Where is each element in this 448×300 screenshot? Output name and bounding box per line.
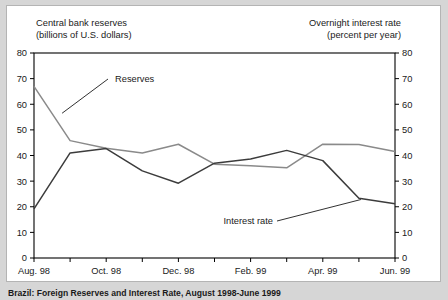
chart-card: Central bank reserves(billions of U.S. d… xyxy=(6,5,441,282)
x-tick-label: Dec. 98 xyxy=(162,266,194,276)
x-tick-label: Apr. 99 xyxy=(308,266,337,276)
y-tick-label-left: 50 xyxy=(17,125,27,135)
y-tick-label-right: 30 xyxy=(402,177,412,187)
right-axis-title-line1: Overnight interest rate xyxy=(309,18,401,28)
x-tick-label: Aug. 98 xyxy=(18,266,50,276)
left-axis-title-line1: Central bank reserves xyxy=(36,18,127,28)
reserves-annotation-label: Reserves xyxy=(115,74,155,84)
y-tick-label-left: 20 xyxy=(17,202,27,212)
series-line-reserves xyxy=(34,86,395,167)
y-tick-label-left: 40 xyxy=(17,151,27,161)
x-tick-label: Jun. 99 xyxy=(380,266,411,276)
interest-rate-annotation-label: Interest rate xyxy=(223,216,273,226)
y-tick-label-right: 70 xyxy=(402,74,412,84)
figure-caption: Brazil: Foreign Reserves and Interest Ra… xyxy=(8,288,438,300)
interest-rate-leader-line xyxy=(277,200,361,221)
chart-plot: Central bank reserves(billions of U.S. d… xyxy=(7,6,442,283)
y-tick-label-right: 40 xyxy=(402,151,412,161)
y-tick-label-left: 70 xyxy=(17,74,27,84)
y-tick-label-left: 30 xyxy=(17,177,27,187)
y-tick-label-left: 60 xyxy=(17,100,27,110)
right-axis-title-line2: (percent per year) xyxy=(327,30,401,40)
y-tick-label-right: 0 xyxy=(402,253,407,263)
x-tick-label: Oct. 98 xyxy=(91,266,121,276)
y-tick-label-right: 50 xyxy=(402,125,412,135)
y-tick-label-right: 80 xyxy=(402,48,412,58)
x-tick-label: Feb. 99 xyxy=(235,266,267,276)
y-tick-label-right: 20 xyxy=(402,202,412,212)
plot-frame xyxy=(34,53,395,258)
y-tick-label-right: 60 xyxy=(402,100,412,110)
y-tick-label-left: 0 xyxy=(22,253,27,263)
y-tick-label-left: 80 xyxy=(17,48,27,58)
reserves-leader-line xyxy=(62,79,108,113)
y-tick-label-left: 10 xyxy=(17,228,27,238)
left-axis-title-line2: (billions of U.S. dollars) xyxy=(36,30,132,40)
y-tick-label-right: 10 xyxy=(402,228,412,238)
series-line-interest-rate xyxy=(34,149,395,209)
figure-container: Central bank reserves(billions of U.S. d… xyxy=(0,0,448,300)
